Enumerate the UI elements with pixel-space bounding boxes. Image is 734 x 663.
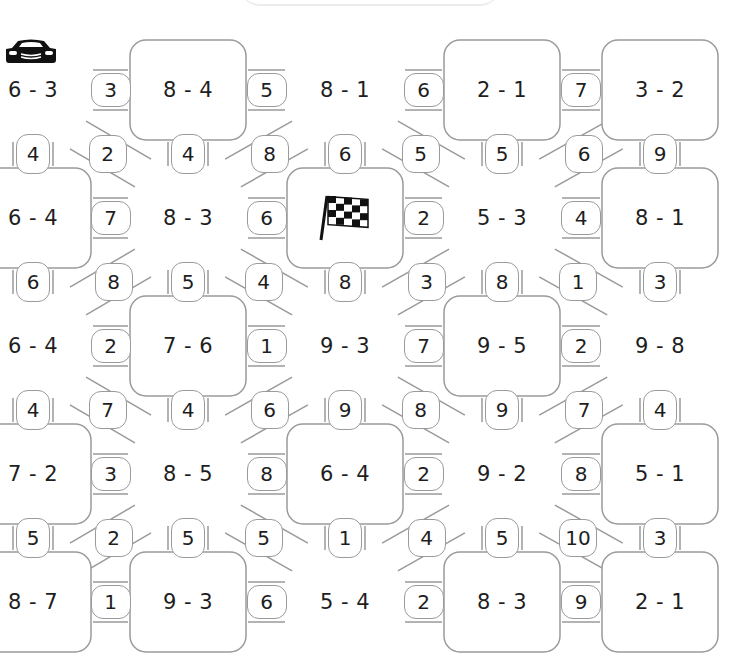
- path-number-badge[interactable]: 3: [91, 73, 131, 107]
- path-number-badge[interactable]: 8: [561, 457, 601, 491]
- race-car-icon: [4, 38, 58, 70]
- maze-node[interactable]: 8 - 7: [8, 590, 58, 614]
- path-number-badge[interactable]: 5: [16, 518, 50, 558]
- path-number-badge[interactable]: 2: [404, 457, 444, 491]
- maze-node[interactable]: 9 - 5: [477, 334, 527, 358]
- path-number-badge[interactable]: 8: [402, 391, 440, 429]
- path-number-badge[interactable]: 4: [171, 134, 205, 174]
- path-number-badge[interactable]: 7: [565, 391, 603, 429]
- path-number-badge[interactable]: 9: [328, 390, 362, 430]
- path-number-badge[interactable]: 6: [404, 73, 444, 107]
- path-number-badge[interactable]: 4: [408, 519, 446, 557]
- maze-node[interactable]: 6 - 4: [320, 462, 370, 486]
- path-number-badge[interactable]: 9: [485, 390, 519, 430]
- maze-node[interactable]: 8 - 1: [635, 206, 685, 230]
- path-number-badge[interactable]: 4: [561, 201, 601, 235]
- path-number-badge[interactable]: 10: [559, 519, 597, 557]
- path-number-badge[interactable]: 7: [561, 73, 601, 107]
- path-number-badge[interactable]: 6: [16, 262, 50, 302]
- maze-node[interactable]: 8 - 4: [163, 78, 213, 102]
- maze-node[interactable]: 5 - 4: [320, 590, 370, 614]
- path-number-badge[interactable]: 5: [485, 518, 519, 558]
- path-number-badge[interactable]: 1: [328, 518, 362, 558]
- path-number-badge[interactable]: 8: [328, 262, 362, 302]
- maze-node[interactable]: 5 - 1: [635, 462, 685, 486]
- maze-node[interactable]: 9 - 3: [320, 334, 370, 358]
- path-number-badge[interactable]: 4: [16, 134, 50, 174]
- path-number-badge[interactable]: 5: [245, 519, 283, 557]
- path-number-badge[interactable]: 5: [402, 135, 440, 173]
- path-number-badge[interactable]: 4: [171, 390, 205, 430]
- path-number-badge[interactable]: 2: [91, 329, 131, 363]
- path-number-badge[interactable]: 2: [404, 585, 444, 619]
- path-number-badge[interactable]: 9: [643, 134, 677, 174]
- path-number-badge[interactable]: 5: [485, 134, 519, 174]
- path-number-badge[interactable]: 2: [95, 519, 133, 557]
- maze-node[interactable]: 5 - 3: [477, 206, 527, 230]
- path-number-badge[interactable]: 4: [245, 263, 283, 301]
- path-number-badge[interactable]: 1: [91, 585, 131, 619]
- maze-node[interactable]: 8 - 3: [477, 590, 527, 614]
- path-number-badge[interactable]: 3: [91, 457, 131, 491]
- path-number-badge[interactable]: 6: [247, 201, 287, 235]
- maze-node[interactable]: 6 - 4: [8, 334, 58, 358]
- path-number-badge[interactable]: 4: [16, 390, 50, 430]
- path-number-badge[interactable]: 4: [643, 390, 677, 430]
- path-number-badge[interactable]: 6: [247, 585, 287, 619]
- path-number-badge[interactable]: 9: [561, 585, 601, 619]
- path-number-badge[interactable]: 8: [485, 262, 519, 302]
- path-number-badge[interactable]: 2: [89, 135, 127, 173]
- checkered-flag-icon: [319, 192, 375, 248]
- maze-node[interactable]: 8 - 5: [163, 462, 213, 486]
- path-number-badge[interactable]: 3: [643, 518, 677, 558]
- maze-node[interactable]: 9 - 3: [163, 590, 213, 614]
- maze-board: 6 - 38 - 48 - 12 - 13 - 26 - 48 - 35 - 3…: [0, 0, 734, 663]
- path-number-badge[interactable]: 8: [247, 457, 287, 491]
- path-number-badge[interactable]: 7: [89, 391, 127, 429]
- path-number-badge[interactable]: 6: [251, 391, 289, 429]
- path-number-badge[interactable]: 8: [95, 263, 133, 301]
- path-number-badge[interactable]: 3: [643, 262, 677, 302]
- path-number-badge[interactable]: 6: [565, 135, 603, 173]
- path-number-badge[interactable]: 6: [328, 134, 362, 174]
- maze-node[interactable]: 6 - 4: [8, 206, 58, 230]
- path-number-badge[interactable]: 2: [404, 201, 444, 235]
- maze-node[interactable]: 7 - 6: [163, 334, 213, 358]
- maze-node[interactable]: 3 - 2: [635, 78, 685, 102]
- path-number-badge[interactable]: 3: [408, 263, 446, 301]
- path-number-badge[interactable]: 5: [171, 262, 205, 302]
- maze-node[interactable]: 9 - 8: [635, 334, 685, 358]
- path-number-badge[interactable]: 2: [561, 329, 601, 363]
- path-number-badge[interactable]: 7: [91, 201, 131, 235]
- path-number-badge[interactable]: 7: [404, 329, 444, 363]
- maze-node[interactable]: 8 - 1: [320, 78, 370, 102]
- path-number-badge[interactable]: 5: [247, 73, 287, 107]
- maze-node[interactable]: 6 - 3: [8, 78, 58, 102]
- maze-node[interactable]: 2 - 1: [477, 78, 527, 102]
- maze-node[interactable]: 9 - 2: [477, 462, 527, 486]
- maze-node[interactable]: 2 - 1: [635, 590, 685, 614]
- path-number-badge[interactable]: 1: [559, 263, 597, 301]
- path-number-badge[interactable]: 8: [251, 135, 289, 173]
- path-number-badge[interactable]: 1: [247, 329, 287, 363]
- maze-node[interactable]: 8 - 3: [163, 206, 213, 230]
- path-number-badge[interactable]: 5: [171, 518, 205, 558]
- maze-node[interactable]: 7 - 2: [8, 462, 58, 486]
